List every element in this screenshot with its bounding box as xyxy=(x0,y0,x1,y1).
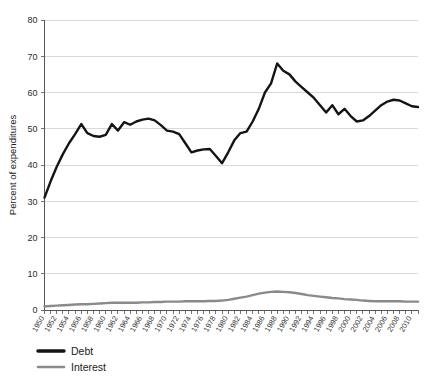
y-tick-label: 20 xyxy=(27,233,37,243)
y-tick-label: 80 xyxy=(27,15,37,25)
y-tick-label: 30 xyxy=(27,197,37,207)
y-tick-label: 10 xyxy=(27,269,37,279)
series-line-interest xyxy=(45,292,419,307)
line-chart: 0102030405060708019501952195419561958196… xyxy=(0,0,435,381)
y-tick-label: 70 xyxy=(27,52,37,62)
y-axis-title-text: Percent of expenditures xyxy=(7,115,18,216)
y-tick-label: 40 xyxy=(27,160,37,170)
series-line-debt xyxy=(45,64,419,198)
y-tick-label: 60 xyxy=(27,88,37,98)
chart-container: 0102030405060708019501952195419561958196… xyxy=(0,0,435,381)
x-tick-label: 2010 xyxy=(397,315,413,334)
y-tick-label: 0 xyxy=(32,305,37,315)
legend-text-interest: Interest xyxy=(71,361,106,373)
y-tick-label: 50 xyxy=(27,124,37,134)
legend-text-debt: Debt xyxy=(71,345,93,357)
